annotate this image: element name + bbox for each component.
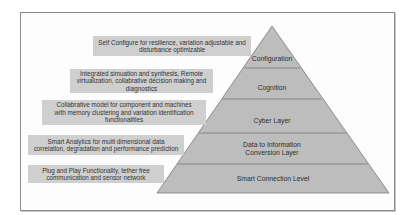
- description-data-to-information-line-2: correlation, degradation and performance…: [34, 145, 179, 152]
- description-configuration-line-2: disturbance optimizable: [98, 46, 245, 53]
- layer-smart-connection-text: Smart Connection Level: [237, 175, 310, 182]
- layer-data-to-information-line-2: Conversion Layer: [243, 149, 301, 157]
- layer-smart-connection: Smart Connection Level: [237, 175, 310, 183]
- layer-configuration-text: Configuration: [252, 55, 292, 62]
- description-configuration-line-1: Self Configure for resilience, variation…: [98, 39, 245, 46]
- description-cognition-line-2: virtualization, collabrative decision ma…: [77, 77, 207, 84]
- layer-cognition: Cognition: [258, 84, 287, 92]
- layer-cyber-text: Cyber Layer: [253, 117, 290, 124]
- description-configuration: Self Configure for resilience, variation…: [93, 36, 251, 56]
- layer-data-to-information: Data to Information Conversion Layer: [243, 141, 301, 157]
- description-cognition-line-1: Integrated simuation and synthesis, Remo…: [77, 70, 207, 77]
- layer-cyber: Cyber Layer: [253, 117, 290, 125]
- layer-cognition-text: Cognition: [258, 84, 287, 91]
- layer-configuration: Configuration: [252, 55, 292, 63]
- description-cyber-line-3: functionalities: [55, 116, 194, 123]
- description-cognition-line-3: diagnostics: [77, 85, 207, 92]
- description-smart-connection-line-1: Plug and Play Functionality, tether free: [42, 167, 150, 174]
- description-cyber-line-2: with memory clustering and variation ide…: [55, 109, 194, 116]
- description-smart-connection-line-2: communication and sensor network: [42, 174, 150, 181]
- description-data-to-information: Smart Analytics for multi dimensional da…: [28, 135, 184, 155]
- layer-data-to-information-line-1: Data to Information: [243, 141, 301, 149]
- description-cognition: Integrated simuation and synthesis, Remo…: [70, 69, 213, 93]
- description-cyber-line-1: Collabrative model for component and mac…: [55, 101, 194, 108]
- description-smart-connection: Plug and Play Functionality, tether free…: [28, 165, 164, 183]
- description-data-to-information-line-1: Smart Analytics for multi dimensional da…: [34, 138, 179, 145]
- description-cyber: Collabrative model for component and mac…: [42, 100, 206, 125]
